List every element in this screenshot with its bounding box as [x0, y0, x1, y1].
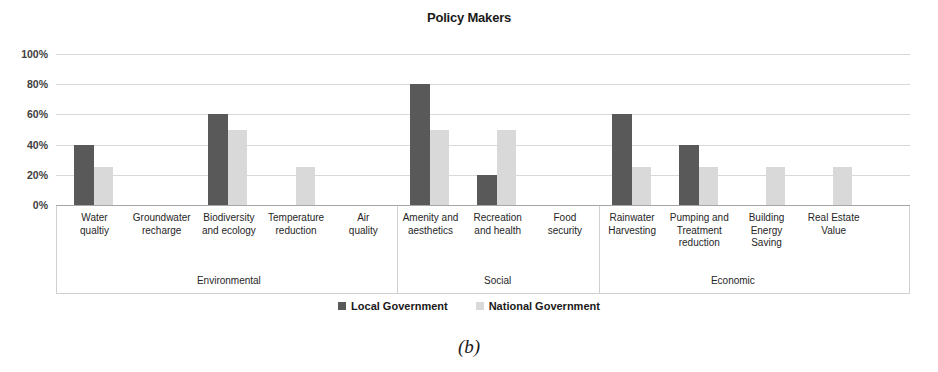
y-tick-label-40: 40% — [0, 139, 48, 151]
bar-local-government — [477, 175, 497, 205]
group-label-economic: Economic — [599, 275, 868, 286]
gridline-60 — [56, 114, 910, 115]
group-label-environmental: Environmental — [61, 275, 397, 286]
legend-label: National Government — [489, 300, 600, 312]
category-label: Airquality — [330, 212, 397, 237]
figure-caption: (b) — [0, 336, 938, 358]
plot-area — [56, 54, 910, 205]
y-tick-label-0: 0% — [0, 199, 48, 211]
legend-item[interactable]: National Government — [476, 300, 600, 312]
category-label-band: WaterqualtiyGroundwaterrechargeBiodivers… — [56, 206, 910, 294]
category-label: Waterqualtiy — [61, 212, 128, 237]
y-tick-label-60: 60% — [0, 108, 48, 120]
bar-local-government — [679, 145, 699, 205]
category-label: RainwaterHarvesting — [599, 212, 666, 237]
chart-title: Policy Makers — [0, 10, 938, 25]
bar-national-government — [296, 167, 315, 205]
y-tick-label-20: 20% — [0, 169, 48, 181]
bar-local-government — [410, 84, 430, 205]
bar-national-government — [766, 167, 785, 205]
y-axis-tick-labels: 100%80%60%40%20%0% — [0, 54, 52, 214]
bar-national-government — [833, 167, 852, 205]
legend-item[interactable]: Local Government — [338, 300, 448, 312]
category-label: BuildingEnergySaving — [733, 212, 800, 250]
legend-label: Local Government — [351, 300, 448, 312]
bar-local-government — [612, 114, 632, 205]
category-label: Pumping andTreatmentreduction — [666, 212, 733, 250]
figure-policy-makers: Policy Makers 100%80%60%40%20%0% Waterqu… — [0, 0, 938, 372]
category-label: Groundwaterrecharge — [128, 212, 195, 237]
legend-swatch-icon — [476, 302, 484, 310]
category-label: Biodiversityand ecology — [195, 212, 262, 237]
bar-national-government — [699, 167, 718, 205]
category-label: Amenity andaesthetics — [397, 212, 464, 237]
bar-national-government — [430, 130, 449, 206]
bar-local-government — [208, 114, 228, 205]
category-label: Recreationand health — [464, 212, 531, 237]
y-tick-label-80: 80% — [0, 78, 48, 90]
category-label: Foodsecurity — [531, 212, 598, 237]
gridline-40 — [56, 145, 910, 146]
bar-national-government — [228, 130, 247, 206]
chart-legend: Local GovernmentNational Government — [0, 300, 938, 312]
y-tick-label-100: 100% — [0, 48, 48, 60]
bar-national-government — [632, 167, 651, 205]
gridline-80 — [56, 84, 910, 85]
group-label-social: Social — [397, 275, 599, 286]
legend-swatch-icon — [338, 302, 346, 310]
gridline-100 — [56, 54, 910, 55]
category-label: Temperaturereduction — [263, 212, 330, 237]
bar-national-government — [497, 130, 516, 206]
bar-national-government — [94, 167, 113, 205]
category-label: Real EstateValue — [800, 212, 867, 237]
bar-local-government — [74, 145, 94, 205]
